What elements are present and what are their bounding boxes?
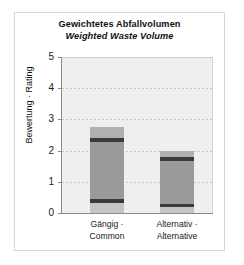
y-tick-label-3: 3 [34, 114, 54, 124]
bar-2-upper-light-cap [160, 151, 194, 158]
y-tick-label-5: 5 [34, 52, 54, 62]
bar-1-upper-light-cap [90, 127, 124, 138]
chart-title-german: Gewichtetes Abfallvolumen [14, 19, 225, 31]
x-category-label-line: Alternative [129, 231, 225, 243]
x-axis-line [61, 213, 213, 214]
y-tick-label-1: 1 [34, 177, 54, 187]
chart-title-block: Gewichtetes Abfallvolumen Weighted Waste… [14, 19, 225, 43]
bar-2-main-body [160, 161, 194, 204]
x-category-label-2: Alternativ ·Alternative [129, 219, 225, 242]
bar-1-lower-light-base [90, 203, 124, 213]
y-tick-label-4: 4 [34, 83, 54, 93]
chart-title-english: Weighted Waste Volume [14, 31, 225, 43]
bar-2-lower-light-base [160, 207, 194, 213]
plot-border-right [212, 57, 213, 214]
x-category-label-line: Alternativ · [129, 219, 225, 231]
y-tick-label-2: 2 [34, 146, 54, 156]
y-tick-label-0: 0 [34, 208, 54, 218]
bar-2 [160, 57, 194, 213]
y-axis-title: Bewertung · Rating [24, 45, 34, 165]
y-axis-line [61, 57, 62, 214]
bar-1-main-body [90, 142, 124, 200]
bar-1 [90, 57, 124, 213]
chart-figure: Gewichtetes Abfallvolumen Weighted Waste… [0, 0, 244, 265]
y-axis-title-text: Bewertung · Rating [24, 66, 34, 143]
